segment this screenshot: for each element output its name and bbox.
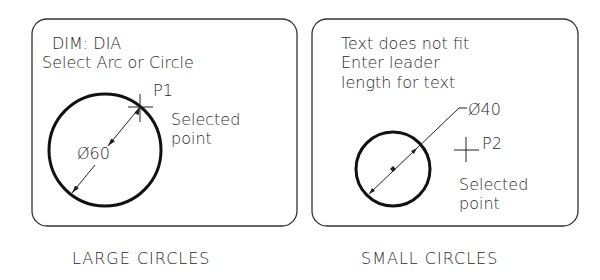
dimension-line-lower — [72, 165, 95, 193]
small-circles-panel: Text does not fit Enter leader length fo… — [312, 19, 578, 268]
prompt-line-2: Select Arc or Circle — [42, 53, 194, 72]
center-mark-icon — [390, 166, 396, 172]
selected-text-1: Selected — [171, 110, 240, 129]
dimension-text: Ø60 — [77, 144, 110, 163]
point-label: P1 — [153, 81, 173, 100]
selected-text-2: point — [459, 194, 500, 213]
selected-text-1: Selected — [459, 175, 528, 194]
prompt-line-1: DIM: DIA — [52, 34, 121, 53]
caption: LARGE CIRCLES — [72, 249, 211, 268]
large-circles-panel: DIM: DIA Select Arc or Circle Ø60 P1 Sel… — [32, 19, 297, 268]
selected-text-2: point — [171, 129, 212, 148]
diameter-dimension-diagram: DIM: DIA Select Arc or Circle Ø60 P1 Sel… — [0, 0, 600, 280]
point-label: P2 — [482, 134, 502, 153]
prompt-line-1: Text does not fit — [341, 34, 469, 53]
prompt-line-2: Enter leader — [341, 53, 440, 72]
prompt-line-3: length for text — [341, 73, 455, 92]
caption: SMALL CIRCLES — [361, 249, 498, 268]
dimension-line-upper — [108, 107, 140, 146]
dimension-text: Ø40 — [468, 100, 501, 119]
